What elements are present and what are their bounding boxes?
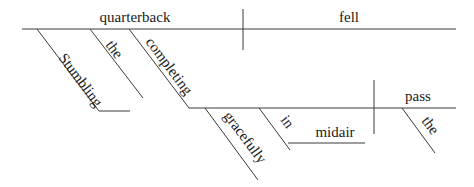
prepositional-object-word: midair (315, 124, 354, 140)
completing-word: completing (143, 34, 197, 98)
sentence-diagram: quarterback fell Stumbling the completin… (0, 0, 474, 187)
object-article-word: the (419, 113, 443, 138)
preposition-in-word: in (278, 112, 298, 131)
predicate-word: fell (339, 9, 359, 25)
adverb-gracefully-word: gracefully (221, 108, 271, 167)
stumbling-word-diagonal: Stumbling (56, 50, 107, 110)
stumbling-word-group: Stumbling (56, 50, 107, 110)
subject-word: quarterback (100, 9, 171, 25)
direct-object-word: pass (405, 88, 431, 104)
article-the-word: the (103, 37, 127, 62)
